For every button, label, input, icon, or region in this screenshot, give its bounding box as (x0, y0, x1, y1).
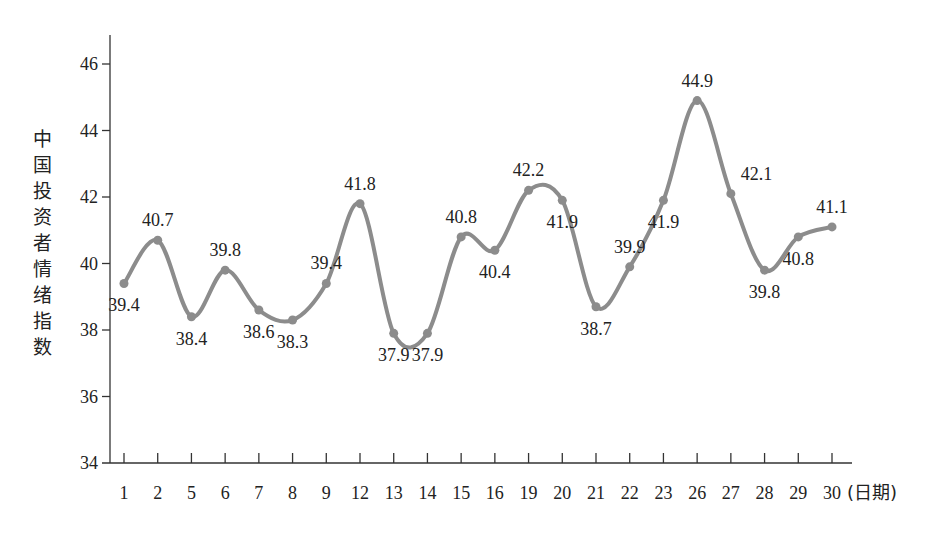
data-label: 37.9 (378, 345, 410, 365)
data-label: 41.9 (648, 212, 680, 232)
data-point (322, 279, 331, 288)
x-tick-label: 1 (120, 483, 129, 503)
data-point (659, 196, 668, 205)
data-label: 38.4 (176, 329, 208, 349)
x-tick-label: 2 (153, 483, 162, 503)
series-line (124, 101, 832, 348)
data-point (592, 302, 601, 311)
data-label: 40.4 (479, 262, 511, 282)
x-axis-ticks: 1256789121314151619202122232627282930(日期… (120, 453, 898, 503)
x-tick-label: 9 (322, 483, 331, 503)
data-point (726, 189, 735, 198)
x-tick-label: 29 (789, 483, 807, 503)
x-tick-label: 5 (187, 483, 196, 503)
x-tick-label: 14 (418, 483, 436, 503)
data-point (794, 232, 803, 241)
x-tick-label: 27 (722, 483, 740, 503)
data-label: 40.8 (783, 249, 815, 269)
y-tick-label: 36 (80, 387, 98, 407)
data-point (187, 312, 196, 321)
x-tick-label: 7 (254, 483, 263, 503)
x-tick-label: 16 (486, 483, 504, 503)
data-point (120, 279, 129, 288)
data-label: 42.2 (513, 160, 545, 180)
data-labels: 39.440.738.439.838.638.339.441.837.937.9… (108, 71, 848, 366)
data-point (389, 329, 398, 338)
data-point (828, 222, 837, 231)
y-tick-label: 42 (80, 187, 98, 207)
data-label: 38.6 (243, 322, 275, 342)
data-point (693, 96, 702, 105)
y-tick-label: 40 (80, 254, 98, 274)
x-axis-label: (日期) (847, 482, 897, 503)
data-point (625, 262, 634, 271)
data-label: 37.9 (412, 345, 444, 365)
data-label: 39.4 (311, 253, 343, 273)
x-tick-label: 22 (621, 483, 639, 503)
data-label: 39.9 (614, 237, 646, 257)
x-tick-label: 23 (654, 483, 672, 503)
y-tick-label: 34 (80, 453, 98, 473)
data-label: 38.7 (580, 319, 612, 339)
x-tick-label: 15 (452, 483, 470, 503)
data-label: 41.1 (816, 197, 848, 217)
data-label: 40.7 (142, 210, 174, 230)
y-tick-label: 46 (80, 54, 98, 74)
data-point (254, 306, 263, 315)
line-chart: 34363840424446 1256789121314151619202122… (0, 0, 941, 545)
x-tick-label: 6 (221, 483, 230, 503)
data-point (490, 246, 499, 255)
data-label: 41.9 (547, 212, 579, 232)
x-tick-label: 28 (756, 483, 774, 503)
data-label: 39.4 (108, 295, 140, 315)
data-label: 40.8 (445, 207, 477, 227)
y-tick-label: 38 (80, 320, 98, 340)
data-label: 39.8 (209, 240, 241, 260)
x-tick-label: 8 (288, 483, 297, 503)
data-point (153, 236, 162, 245)
data-point (288, 316, 297, 325)
data-point (457, 232, 466, 241)
y-axis-ticks: 34363840424446 (80, 54, 110, 473)
data-point (221, 266, 230, 275)
data-label: 44.9 (681, 71, 713, 91)
data-point (524, 186, 533, 195)
x-tick-label: 21 (587, 483, 605, 503)
data-point (760, 266, 769, 275)
data-label: 42.1 (741, 164, 773, 184)
x-tick-label: 19 (520, 483, 538, 503)
x-tick-label: 13 (385, 483, 403, 503)
y-tick-label: 44 (80, 121, 98, 141)
data-markers (120, 96, 837, 338)
x-tick-label: 20 (553, 483, 571, 503)
data-point (356, 199, 365, 208)
data-label: 38.3 (277, 332, 309, 352)
data-point (558, 196, 567, 205)
x-tick-label: 12 (351, 483, 369, 503)
x-tick-label: 26 (688, 483, 706, 503)
data-label: 41.8 (344, 174, 376, 194)
data-label: 39.8 (749, 282, 781, 302)
x-tick-label: 30 (823, 483, 841, 503)
data-point (423, 329, 432, 338)
